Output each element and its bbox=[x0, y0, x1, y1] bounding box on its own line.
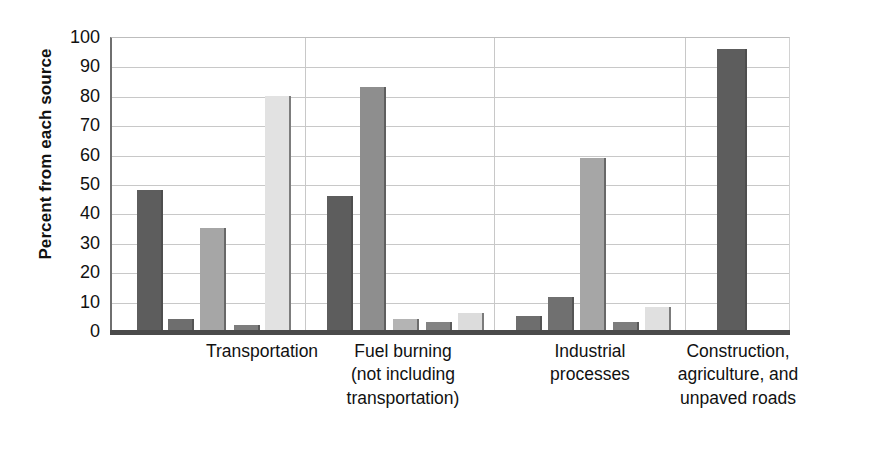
bar bbox=[265, 96, 291, 331]
plot-area bbox=[110, 37, 790, 331]
x-axis-group-label: Construction,agriculture, andunpaved roa… bbox=[623, 340, 853, 410]
x-axis-group-label-line: unpaved roads bbox=[623, 387, 853, 410]
bar bbox=[645, 307, 671, 331]
bar bbox=[717, 49, 747, 331]
x-axis-group-label-line: agriculture, and bbox=[623, 363, 853, 386]
y-axis-tick-label: 0 bbox=[52, 322, 100, 340]
x-axis-group-label-line: Fuel burning bbox=[303, 340, 503, 363]
y-axis-tick-label: 90 bbox=[52, 57, 100, 75]
y-axis-tick-label: 20 bbox=[52, 263, 100, 281]
x-axis-baseline bbox=[110, 330, 790, 335]
bar bbox=[516, 316, 542, 331]
y-axis-tick-label: 40 bbox=[52, 204, 100, 222]
bar bbox=[200, 228, 226, 331]
bar bbox=[548, 297, 574, 331]
bar-chart: Percent from each source 100908070605040… bbox=[0, 0, 876, 449]
bar bbox=[580, 158, 606, 331]
bar bbox=[360, 87, 386, 331]
x-axis-group-label-line: transportation) bbox=[303, 387, 503, 410]
y-axis-tick-label: 60 bbox=[52, 146, 100, 164]
x-axis-group-label-line: Construction, bbox=[623, 340, 853, 363]
y-axis-tick-label: 70 bbox=[52, 116, 100, 134]
bars-layer bbox=[112, 38, 789, 331]
bar bbox=[458, 313, 484, 331]
bar bbox=[327, 196, 353, 331]
y-axis-tick-label: 50 bbox=[52, 175, 100, 193]
x-axis-group-labels: TransportationFuel burning(not including… bbox=[110, 340, 790, 445]
bar bbox=[137, 190, 163, 331]
x-axis-group-label-line: (not including bbox=[303, 363, 503, 386]
y-axis-tick-label: 100 bbox=[52, 28, 100, 46]
y-axis-tick-label: 30 bbox=[52, 234, 100, 252]
y-axis-tick-label: 80 bbox=[52, 87, 100, 105]
x-axis-group-label: Fuel burning(not includingtransportation… bbox=[303, 340, 503, 410]
y-axis-tick-labels: 1009080706050403020100 bbox=[52, 37, 100, 331]
y-axis-tick-label: 10 bbox=[52, 293, 100, 311]
